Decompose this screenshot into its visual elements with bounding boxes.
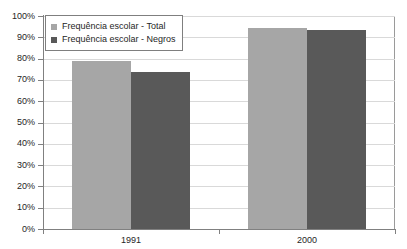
x-axis-tick	[219, 229, 220, 234]
y-axis-tick	[38, 101, 43, 102]
legend-label-total: Frequência escolar - Total	[62, 22, 165, 31]
y-axis-tick	[38, 80, 43, 81]
y-axis-tick-label: 10%	[0, 203, 35, 212]
y-axis-tick-label: 0%	[0, 225, 35, 234]
y-axis-tick-label: 30%	[0, 161, 35, 170]
y-axis-tick	[38, 165, 43, 166]
y-axis-tick-label: 60%	[0, 97, 35, 106]
legend-label-negros: Frequência escolar - Negros	[62, 35, 176, 44]
x-axis-tick-label: 1991	[43, 236, 219, 245]
y-axis-tick	[38, 59, 43, 60]
y-axis-tick	[38, 208, 43, 209]
y-axis-line	[43, 15, 44, 230]
y-axis-tick	[38, 123, 43, 124]
y-axis-tick	[38, 186, 43, 187]
y-axis-tick-label: 70%	[0, 75, 35, 84]
y-axis-tick	[38, 144, 43, 145]
legend-swatch-negros	[51, 37, 57, 43]
y-axis-tick	[38, 16, 43, 17]
bar	[248, 28, 307, 229]
y-axis-tick-label: 80%	[0, 54, 35, 63]
legend-item-negros: Frequência escolar - Negros	[51, 33, 176, 46]
legend-item-total: Frequência escolar - Total	[51, 20, 176, 33]
bar	[307, 30, 366, 229]
y-axis-tick-label: 40%	[0, 139, 35, 148]
x-axis-tick-label: 2000	[219, 236, 395, 245]
y-axis-tick-label: 20%	[0, 182, 35, 191]
legend-swatch-total	[51, 24, 57, 30]
y-axis-tick-label: 100%	[0, 12, 35, 21]
y-axis-tick-label: 50%	[0, 118, 35, 127]
x-axis-tick	[395, 229, 396, 234]
chart-legend: Frequência escolar - Total Frequência es…	[45, 15, 183, 51]
x-axis-tick	[43, 229, 44, 234]
y-axis-tick-label: 90%	[0, 33, 35, 42]
bar	[72, 61, 131, 229]
bar-chart: 0%10%20%30%40%50%60%70%80%90%100% 199120…	[0, 0, 407, 249]
y-axis-tick	[38, 37, 43, 38]
bar	[131, 72, 190, 229]
